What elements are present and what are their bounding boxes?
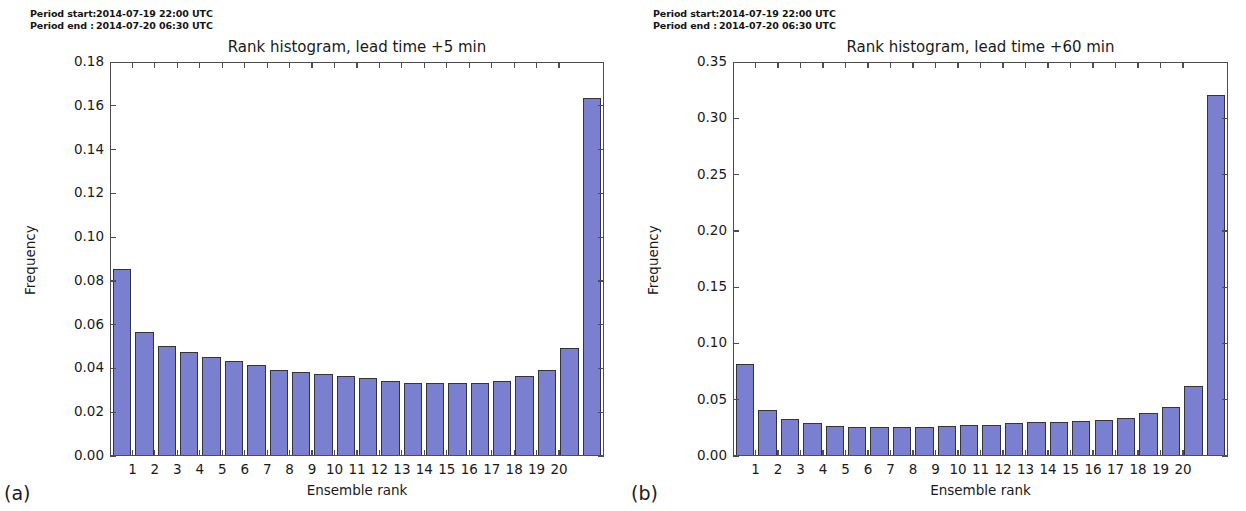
bar [538, 370, 556, 455]
x-axis-tick-mark [1160, 62, 1161, 68]
x-axis-tick-mark [267, 62, 268, 68]
period-end-row: Period end :2014-07-20 06:30 UTC [30, 20, 213, 32]
x-axis-tick-mark [311, 450, 312, 456]
figure-panel-a: Period start:2014-07-19 22:00 UTCPeriod … [0, 0, 623, 511]
bar [803, 423, 821, 455]
x-axis-tick-mark [1047, 450, 1048, 456]
x-axis-tick-mark [356, 450, 357, 456]
x-axis-tick-mark [800, 62, 801, 68]
period-end-value: 2014-07-20 06:30 UTC [719, 20, 836, 32]
y-axis-tick-mark [1222, 118, 1228, 119]
x-axis-tick-mark [755, 450, 756, 456]
x-axis-tick-mark [1182, 450, 1183, 456]
bar [1139, 413, 1157, 455]
period-start-value: 2014-07-19 22:00 UTC [96, 8, 213, 20]
y-axis-tick-mark [598, 456, 604, 457]
period-start-row: Period start:2014-07-19 22:00 UTC [30, 8, 213, 20]
y-axis-tick-mark [598, 324, 604, 325]
x-axis-tick-mark [935, 62, 936, 68]
y-axis-tick-mark [598, 62, 604, 63]
bar [736, 364, 754, 455]
bar [1117, 418, 1135, 455]
x-axis-tick-mark [1047, 62, 1048, 68]
x-axis-tick-mark [777, 450, 778, 456]
y-axis-tick-label: 0.14 [48, 141, 104, 157]
bar [1095, 420, 1113, 455]
bar [314, 374, 332, 455]
bar [448, 383, 466, 455]
bar [404, 383, 422, 455]
y-axis-tick-mark [110, 368, 116, 369]
x-axis-tick-mark [1092, 62, 1093, 68]
period-end-row: Period end :2014-07-20 06:30 UTC [653, 20, 836, 32]
x-axis-tick-mark [177, 450, 178, 456]
x-axis-tick-mark [177, 62, 178, 68]
bar [960, 425, 978, 455]
y-axis-tick-mark [598, 193, 604, 194]
y-axis-tick-mark [110, 237, 116, 238]
x-axis-tick-mark [311, 62, 312, 68]
y-axis-tick-mark [110, 105, 116, 106]
x-axis-tick-mark [1025, 450, 1026, 456]
bar [826, 426, 844, 455]
period-end-key: Period end : [30, 20, 96, 32]
x-axis-tick-mark [132, 450, 133, 456]
bars-layer [111, 63, 603, 455]
y-axis-tick-label: 0.35 [671, 53, 727, 69]
x-axis-tick-mark [1002, 62, 1003, 68]
y-axis-tick-mark [110, 324, 116, 325]
bar [180, 352, 198, 455]
bar [471, 383, 489, 455]
y-axis-tick-label: 0.30 [671, 109, 727, 125]
plot-area [733, 62, 1228, 456]
bar [337, 376, 355, 455]
bar [848, 427, 866, 455]
y-axis-tick-mark [1222, 287, 1228, 288]
bar [893, 427, 911, 455]
y-axis-tick-mark [733, 287, 739, 288]
bar [1027, 422, 1045, 455]
x-axis-tick-mark [356, 62, 357, 68]
x-axis-tick-mark [935, 450, 936, 456]
bar [583, 98, 601, 455]
x-axis-tick-mark [980, 450, 981, 456]
bar [515, 376, 533, 455]
y-axis-tick-label: 0.15 [671, 278, 727, 294]
period-end-key: Period end : [653, 20, 719, 32]
x-axis-tick-mark [199, 450, 200, 456]
x-axis-tick-mark [289, 450, 290, 456]
x-axis-tick-mark [446, 450, 447, 456]
period-start-row: Period start:2014-07-19 22:00 UTC [653, 8, 836, 20]
x-axis-tick-mark [222, 62, 223, 68]
bar [1072, 421, 1090, 455]
x-axis-tick-mark [822, 450, 823, 456]
chart-title: Rank histogram, lead time +60 min [733, 38, 1228, 56]
x-axis-tick-mark [244, 62, 245, 68]
x-axis-tick-mark [1025, 62, 1026, 68]
y-axis-tick-label: 0.06 [48, 316, 104, 332]
y-axis-tick-label: 0.18 [48, 53, 104, 69]
y-axis-tick-mark [110, 412, 116, 413]
x-axis-label: Ensemble rank [110, 482, 604, 498]
x-axis-tick-mark [469, 450, 470, 456]
x-axis-tick-mark [1115, 450, 1116, 456]
x-axis-tick-mark [1137, 62, 1138, 68]
y-axis-tick-mark [1222, 399, 1228, 400]
x-axis-tick-mark [222, 450, 223, 456]
bar [1005, 423, 1023, 455]
bar [158, 346, 176, 455]
x-axis-tick-mark [514, 450, 515, 456]
y-axis-tick-mark [1222, 230, 1228, 231]
bar [247, 365, 265, 455]
y-axis-tick-mark [598, 412, 604, 413]
period-start-key: Period start: [653, 8, 719, 20]
bar [870, 427, 888, 455]
y-axis-tick-mark [598, 149, 604, 150]
y-axis-tick-mark [598, 237, 604, 238]
x-axis-tick-mark [1092, 450, 1093, 456]
x-axis-tick-mark [890, 450, 891, 456]
bar [560, 348, 578, 455]
y-axis-tick-mark [110, 456, 116, 457]
y-axis-tick-mark [110, 149, 116, 150]
x-axis-tick-mark [890, 62, 891, 68]
